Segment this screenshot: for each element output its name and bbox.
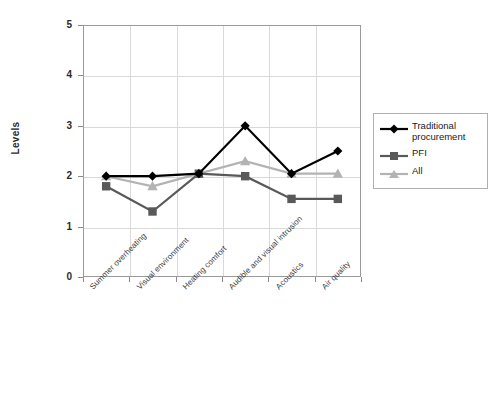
gridline-vertical	[223, 26, 224, 276]
x-axis-tick	[176, 277, 177, 282]
y-axis-tick-label: 4	[50, 69, 72, 80]
legend-swatch-triangle-icon	[379, 166, 409, 178]
legend-swatch-diamond-icon	[379, 121, 409, 133]
y-axis-tick-label: 3	[50, 120, 72, 131]
y-axis-tick-label: 5	[50, 19, 72, 30]
y-axis-tick	[78, 25, 83, 26]
gridline-horizontal	[84, 177, 360, 178]
legend-label-pfi: PFI	[412, 147, 427, 158]
chart-screenshot: Levels 012345 Summer overheatingVisual e…	[0, 0, 492, 399]
x-axis-tick	[83, 277, 84, 282]
gridline-horizontal	[84, 127, 360, 128]
legend-label-line1: Traditional	[412, 120, 456, 131]
x-axis-tick	[315, 277, 316, 282]
x-axis-tick	[268, 277, 269, 282]
legend-swatch-square-icon	[379, 148, 409, 160]
x-axis-tick	[361, 277, 362, 282]
plot-area	[83, 25, 361, 277]
y-axis-tick	[78, 227, 83, 228]
y-axis-tick-label: 2	[50, 170, 72, 181]
legend-label-all: All	[412, 165, 423, 176]
x-axis-tick	[222, 277, 223, 282]
y-axis-tick	[78, 176, 83, 177]
gridline-horizontal	[84, 76, 360, 77]
y-axis-tick-label: 1	[50, 221, 72, 232]
gridline-vertical	[177, 26, 178, 276]
y-axis-tick-label: 0	[50, 271, 72, 282]
gridline-horizontal	[84, 228, 360, 229]
x-axis-tick	[129, 277, 130, 282]
y-axis-tick	[78, 126, 83, 127]
legend-label-traditional-procurement: Traditional procurement	[412, 120, 465, 142]
chart-legend: Traditional procurement PFI All	[373, 113, 488, 189]
legend-item-all: All	[379, 165, 487, 178]
gridline-vertical	[316, 26, 317, 276]
gridline-vertical	[130, 26, 131, 276]
y-axis-tick	[78, 75, 83, 76]
gridline-vertical	[269, 26, 270, 276]
y-axis-title: Levels	[10, 93, 30, 183]
legend-label-line2: procurement	[412, 131, 465, 142]
legend-item-traditional-procurement: Traditional procurement	[379, 120, 487, 142]
legend-item-pfi: PFI	[379, 147, 487, 160]
